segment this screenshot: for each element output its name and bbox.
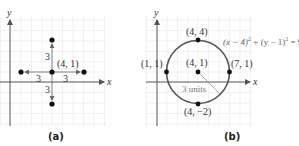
point-center — [49, 69, 54, 74]
y-axis-label: y — [153, 7, 159, 18]
circle-equation: (x − 4)2 + (y − 1)2 = 9 — [223, 36, 299, 47]
caption-a: (a) — [48, 131, 64, 142]
point-top — [49, 37, 54, 42]
y-axis-label: y — [6, 7, 12, 18]
point-bottom — [49, 101, 54, 106]
label-left: (1, 1) — [141, 58, 163, 70]
distance-label-up: 3 — [45, 51, 50, 62]
distance-label-right: 3 — [63, 73, 68, 84]
point-top — [196, 38, 201, 43]
distance-label-left: 3 — [36, 73, 41, 84]
label-bottom: (4, −2) — [184, 106, 211, 118]
panel-a: x y 3 3 3 3 (4, 1) (a) — [0, 7, 112, 142]
x-axis-label: x — [106, 76, 112, 87]
distance-label-down: 3 — [45, 84, 50, 95]
point-left — [18, 69, 23, 74]
point-center — [196, 70, 201, 75]
center-label: (4, 1) — [57, 58, 79, 70]
point-left — [164, 70, 169, 75]
label-center: (4, 1) — [186, 57, 208, 69]
point-right — [81, 69, 86, 74]
label-top: (4, 4) — [186, 26, 208, 38]
panel-b: x y (4, 4) (4, 1) (7, 1) (1, 1) (4, −2) … — [141, 7, 299, 142]
point-right — [227, 70, 232, 75]
figure: x y 3 3 3 3 (4, 1) (a) — [0, 0, 299, 146]
label-right: (7, 1) — [231, 58, 253, 70]
x-axis-label: x — [252, 76, 258, 87]
radius-label: 3 units — [182, 84, 207, 94]
caption-b: (b) — [224, 131, 240, 142]
